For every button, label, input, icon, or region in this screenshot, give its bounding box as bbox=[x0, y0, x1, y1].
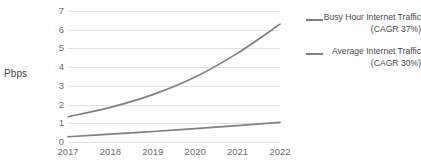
x-axis-tick-label: 2019 bbox=[133, 147, 173, 157]
legend-line-icon bbox=[306, 49, 323, 58]
series-lines bbox=[68, 11, 280, 142]
y-axis-tick-labels: 01234567 bbox=[46, 11, 64, 142]
x-axis-tick-labels: 201720182019202020212022 bbox=[68, 147, 280, 161]
x-axis-tick-label: 2020 bbox=[175, 147, 215, 157]
legend-label: Average Internet Traffic (CAGR 30%) bbox=[323, 46, 421, 69]
y-axis-tick-label: 6 bbox=[50, 25, 64, 35]
y-axis-tick-label: 7 bbox=[50, 6, 64, 16]
line-chart: Pbps 01234567 201720182019202020212022 B… bbox=[0, 0, 421, 168]
plot-area bbox=[68, 11, 280, 142]
y-axis-tick-label: 1 bbox=[50, 118, 64, 128]
x-axis-tick-label: 2021 bbox=[218, 147, 258, 157]
y-axis-tick-label: 3 bbox=[50, 81, 64, 91]
series-line-1 bbox=[68, 24, 280, 117]
y-axis-title: Pbps bbox=[4, 68, 48, 79]
legend-entry[interactable]: Average Internet Traffic (CAGR 30%) bbox=[306, 46, 421, 69]
y-axis-tick-label: 2 bbox=[50, 100, 64, 110]
y-axis-tick-label: 4 bbox=[50, 62, 64, 72]
legend-line-icon bbox=[306, 15, 323, 24]
gridline bbox=[68, 142, 280, 143]
x-axis-tick-label: 2018 bbox=[90, 147, 130, 157]
x-axis-tick-label: 2022 bbox=[260, 147, 300, 157]
legend-entry[interactable]: Busy Hour Internet Traffic (CAGR 37%) bbox=[306, 12, 421, 35]
x-axis-tick-label: 2017 bbox=[48, 147, 88, 157]
legend: Busy Hour Internet Traffic (CAGR 37%)Ave… bbox=[306, 12, 421, 80]
y-axis-tick-label: 5 bbox=[50, 43, 64, 53]
series-line-2 bbox=[68, 122, 280, 136]
legend-label: Busy Hour Internet Traffic (CAGR 37%) bbox=[323, 12, 421, 35]
